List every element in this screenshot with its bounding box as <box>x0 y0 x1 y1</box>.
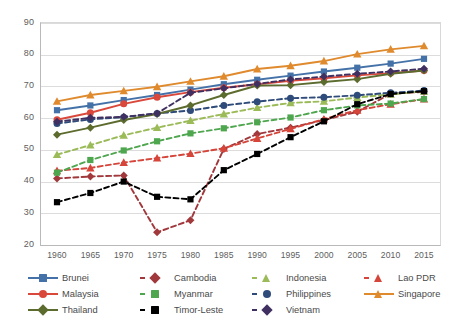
x-axis: 1960196519701975198019851990199520002005… <box>40 250 441 266</box>
legend-marker-triangle-icon <box>262 274 270 282</box>
legend-item-lao-pdr[interactable]: Lao PDR <box>364 270 436 285</box>
x-tick-label: 1960 <box>47 250 67 260</box>
data-point-marker <box>388 100 394 106</box>
data-point-marker <box>153 228 161 236</box>
legend-item-vietnam[interactable]: Vietnam <box>252 302 320 317</box>
data-point-marker <box>421 88 427 94</box>
legend-marker-square-icon <box>151 290 159 298</box>
x-tick-label: 1995 <box>281 250 301 260</box>
legend-item-singapore[interactable]: Singapore <box>364 286 440 301</box>
legend-item-timor-leste[interactable]: Timor-Leste <box>140 302 223 317</box>
series-line <box>57 92 424 232</box>
data-point-marker <box>388 91 394 97</box>
legend-marker-triangle-icon <box>374 274 382 282</box>
data-point-marker <box>321 118 327 124</box>
y-tick-label: 70 <box>6 81 34 90</box>
data-point-marker <box>354 92 361 99</box>
chart-legend: BruneiCambodiaIndonesiaLao PDRMalaysiaMy… <box>28 270 448 318</box>
data-point-marker <box>287 134 293 140</box>
legend-marker-diamond-icon <box>37 304 48 315</box>
legend-label: Indonesia <box>286 273 326 283</box>
data-point-marker <box>154 138 160 144</box>
data-point-marker <box>121 178 127 184</box>
plot-area-wrapper: 2030405060708090 19601965197019751980198… <box>0 0 456 258</box>
legend-label: Cambodia <box>174 273 216 283</box>
data-point-marker <box>154 94 161 101</box>
x-tick-label: 1965 <box>81 250 101 260</box>
data-point-marker <box>254 119 260 125</box>
legend-row: BruneiCambodiaIndonesiaLao PDR <box>28 270 448 285</box>
data-point-marker <box>354 101 360 107</box>
legend-marker-diamond-icon <box>261 304 272 315</box>
data-point-marker <box>421 96 427 102</box>
series-line <box>57 59 424 110</box>
legend-swatch <box>252 304 282 316</box>
y-tick-label: 80 <box>6 49 34 58</box>
plot-area <box>40 22 441 246</box>
x-tick-label: 1980 <box>181 250 201 260</box>
data-point-marker <box>287 95 294 102</box>
legend-marker-circle-icon <box>263 290 271 298</box>
data-point-marker <box>186 216 194 224</box>
data-point-marker <box>187 130 193 136</box>
data-point-marker <box>388 60 394 66</box>
data-point-marker <box>87 157 93 163</box>
legend-label: Thailand <box>62 305 98 315</box>
data-point-marker <box>220 102 227 109</box>
legend-marker-circle-icon <box>39 290 47 298</box>
legend-swatch <box>28 288 58 300</box>
series-layer <box>41 23 440 245</box>
legend-item-thailand[interactable]: Thailand <box>28 302 98 317</box>
y-tick-label: 20 <box>6 240 34 249</box>
legend-item-philippines[interactable]: Philippines <box>252 286 331 301</box>
legend-label: Brunei <box>62 273 89 283</box>
x-tick-label: 1970 <box>114 250 134 260</box>
legend-item-indonesia[interactable]: Indonesia <box>252 270 326 285</box>
data-point-marker <box>87 190 93 196</box>
legend-swatch <box>28 304 58 316</box>
y-tick-label: 30 <box>6 208 34 217</box>
data-point-marker <box>53 131 61 139</box>
legend-label: Timor-Leste <box>174 305 223 315</box>
legend-label: Lao PDR <box>398 273 436 283</box>
legend-marker-diamond-icon <box>149 272 160 283</box>
data-point-marker <box>254 98 261 105</box>
legend-marker-square-icon <box>151 306 159 314</box>
series-timor-leste <box>54 88 427 205</box>
y-tick-label: 60 <box>6 113 34 122</box>
x-tick-label: 2005 <box>348 250 368 260</box>
legend-marker-square-icon <box>39 274 47 282</box>
data-point-marker <box>187 196 193 202</box>
data-point-marker <box>120 172 128 180</box>
y-tick-label: 50 <box>6 144 34 153</box>
y-tick-label: 90 <box>6 18 34 27</box>
legend-item-cambodia[interactable]: Cambodia <box>140 270 216 285</box>
data-point-marker <box>87 102 93 108</box>
legend-row: ThailandTimor-LesteVietnam <box>28 302 448 317</box>
x-tick-label: 2000 <box>314 250 334 260</box>
legend-marker-triangle-icon <box>374 290 382 298</box>
legend-item-malaysia[interactable]: Malaysia <box>28 286 99 301</box>
legend-swatch <box>364 288 394 300</box>
data-point-marker <box>54 107 60 113</box>
data-point-marker <box>120 100 127 107</box>
line-chart: 2030405060708090 19601965197019751980198… <box>0 0 456 320</box>
legend-label: Philippines <box>286 289 331 299</box>
legend-swatch <box>140 272 170 284</box>
x-tick-label: 1985 <box>214 250 234 260</box>
legend-swatch <box>252 288 282 300</box>
data-point-marker <box>287 114 293 120</box>
data-point-marker <box>120 131 128 139</box>
x-tick-label: 1990 <box>247 250 267 260</box>
data-point-marker <box>221 167 227 173</box>
legend-swatch <box>252 272 282 284</box>
data-point-marker <box>320 94 327 101</box>
data-point-marker <box>186 101 194 109</box>
legend-item-myanmar[interactable]: Myanmar <box>140 286 213 301</box>
data-point-marker <box>254 151 260 157</box>
legend-label: Singapore <box>398 289 440 299</box>
x-tick-label: 2015 <box>414 250 434 260</box>
legend-item-brunei[interactable]: Brunei <box>28 270 89 285</box>
data-point-marker <box>154 194 160 200</box>
data-point-marker <box>321 107 327 113</box>
